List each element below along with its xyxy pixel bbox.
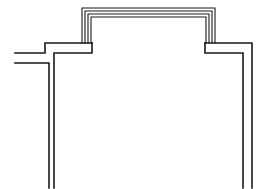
bay-line-4 (91, 17, 206, 43)
right-inner-wall-line (205, 43, 243, 188)
left-step-inner-line (54, 43, 92, 188)
floor-plan-drawing (0, 0, 263, 189)
bay-line-1 (82, 8, 215, 43)
bay-line-2 (85, 11, 212, 43)
right-outer-wall-line (205, 43, 252, 188)
left-outer-wall-line (15, 43, 92, 53)
left-inner-wall-line (15, 63, 49, 188)
bay-line-3 (88, 14, 209, 43)
